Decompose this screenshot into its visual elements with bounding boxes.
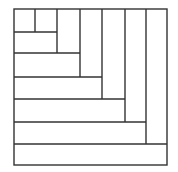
spiral-rectangle-diagram xyxy=(0,0,178,172)
divider-lines xyxy=(14,9,167,144)
